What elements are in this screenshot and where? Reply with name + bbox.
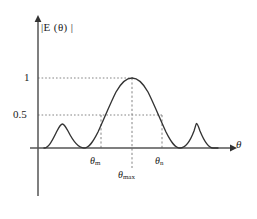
theta-max-subscript: max — [123, 173, 135, 181]
theta-n-subscript: n — [160, 159, 164, 167]
pattern-curve — [44, 78, 218, 148]
antenna-pattern-plot — [0, 0, 257, 219]
theta-m-subscript: m — [95, 159, 100, 167]
y-axis-label: |E (θ) | — [41, 22, 73, 33]
annotation-theta-max: θmax — [118, 170, 135, 181]
y-tick-label-0.5: 0.5 — [13, 109, 27, 120]
figure-canvas: |E (θ) | θ 1 0.5 θm θn θmax — [0, 0, 257, 219]
x-axis-label: θ — [236, 139, 241, 150]
annotation-theta-m: θm — [90, 156, 100, 167]
annotation-theta-n: θn — [155, 156, 163, 167]
y-tick-label-1: 1 — [24, 72, 30, 83]
